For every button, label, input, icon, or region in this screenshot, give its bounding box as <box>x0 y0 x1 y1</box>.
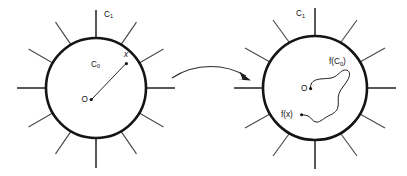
left-disk-group: C1 C0 O x <box>17 10 175 168</box>
spoke-left-2 <box>139 49 163 63</box>
spoke-left-7 <box>56 131 72 154</box>
right-disk-group: C1 f(C0) O f(x) <box>234 8 396 169</box>
spoke-right-1 <box>341 20 357 42</box>
left-boundary-circle <box>46 38 146 138</box>
right-interior-label: f(C0) <box>329 57 346 67</box>
right-boundary-label: C1 <box>296 9 305 19</box>
left-center-label: O <box>82 95 88 104</box>
spoke-right-8 <box>245 114 270 128</box>
right-point-fx <box>300 113 303 116</box>
spoke-left-5 <box>121 131 137 154</box>
right-boundary-circle <box>263 36 367 140</box>
spoke-left-10 <box>29 49 53 63</box>
left-point-x <box>125 62 128 65</box>
figure-canvas: C1 C0 O x <box>0 0 407 176</box>
spoke-left-4 <box>139 113 163 127</box>
spoke-right-5 <box>341 134 357 156</box>
right-center-point <box>309 87 312 90</box>
spoke-left-11 <box>56 22 72 45</box>
spoke-right-4 <box>360 114 385 128</box>
figure-svg: C1 C0 O x <box>0 0 407 176</box>
right-center-label: O <box>301 84 307 93</box>
right-point-fx-label: f(x) <box>281 110 293 119</box>
spoke-left-1 <box>121 22 137 45</box>
spoke-right-7 <box>273 134 289 156</box>
left-boundary-label: C1 <box>104 10 113 20</box>
mapping-arrow-curve <box>172 67 246 79</box>
left-center-point <box>90 98 93 101</box>
spoke-right-11 <box>273 20 289 42</box>
spoke-right-10 <box>245 48 270 62</box>
mapping-arrow-group <box>172 67 251 81</box>
spoke-right-2 <box>360 48 385 62</box>
spoke-left-8 <box>29 113 53 127</box>
